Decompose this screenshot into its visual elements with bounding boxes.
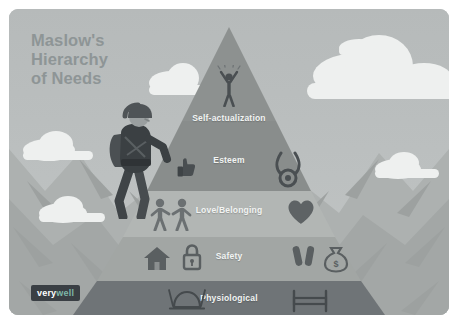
illustration-frame: Self-actualization Esteem Love/Belonging… bbox=[0, 0, 458, 324]
tier-label-love-belonging: Love/Belonging bbox=[9, 205, 449, 215]
pills-icon bbox=[292, 243, 316, 269]
title-line-3: of Needs bbox=[31, 69, 108, 88]
page-title: Maslow's Hierarchy of Needs bbox=[31, 31, 108, 88]
thumbs-up-icon bbox=[176, 155, 198, 181]
food-plate-icon bbox=[167, 287, 207, 313]
title-line-1: Maslow's bbox=[31, 31, 108, 50]
logo-text-well: well bbox=[56, 288, 74, 298]
house-icon bbox=[143, 245, 171, 271]
padlock-icon bbox=[181, 243, 203, 271]
verywell-logo[interactable]: very well bbox=[31, 285, 80, 301]
logo-text-very: very bbox=[37, 288, 56, 298]
mountain-climber-figure bbox=[105, 101, 175, 219]
tier-label-safety: Safety bbox=[9, 251, 449, 261]
medal-icon bbox=[273, 151, 303, 189]
heart-icon bbox=[287, 199, 315, 225]
svg-text:$: $ bbox=[333, 259, 338, 269]
title-line-2: Hierarchy bbox=[31, 50, 108, 69]
tier-label-self-actualization: Self-actualization bbox=[9, 113, 449, 123]
bed-icon bbox=[291, 289, 329, 313]
money-bag-icon: $ bbox=[322, 245, 350, 273]
tier-label-esteem: Esteem bbox=[9, 155, 449, 165]
illustration-card: Self-actualization Esteem Love/Belonging… bbox=[9, 9, 449, 315]
person-arms-raised-icon bbox=[216, 65, 242, 107]
